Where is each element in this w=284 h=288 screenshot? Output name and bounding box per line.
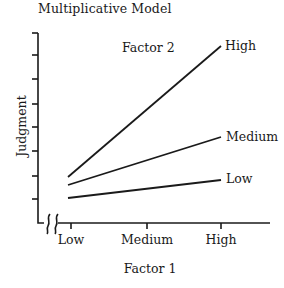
y-axis <box>38 33 44 223</box>
axis-break-icon <box>55 214 58 234</box>
series-line-low <box>68 180 221 198</box>
x-ticks <box>71 223 221 229</box>
series-line-high <box>68 46 221 177</box>
axis-break-icon <box>47 214 50 234</box>
y-ticks <box>32 55 38 199</box>
series-line-medium <box>68 137 221 185</box>
chart-plot <box>0 0 284 288</box>
